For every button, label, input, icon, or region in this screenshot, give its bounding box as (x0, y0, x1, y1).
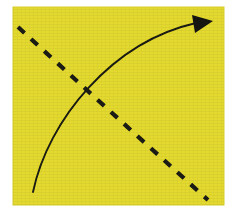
diagram-svg: Curved arrow crossing a dashed diagonal … (0, 0, 242, 220)
yellow-square-panel (13, 7, 224, 205)
diagram-canvas: Curved arrow crossing a dashed diagonal … (0, 0, 242, 220)
